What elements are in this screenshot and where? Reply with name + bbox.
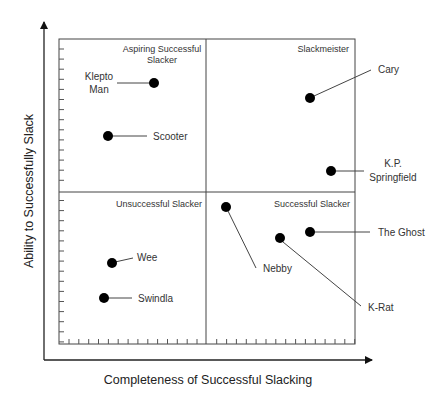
quadrant-chart: Aspiring Successful Slacker Slackmeister… bbox=[0, 0, 447, 405]
label-wee: Wee bbox=[137, 252, 158, 263]
leader-cary bbox=[314, 70, 371, 96]
label-scooter: Scooter bbox=[153, 131, 188, 142]
quadrant-label-slackmeister: Slackmeister bbox=[297, 44, 349, 54]
point-scooter[interactable] bbox=[103, 131, 113, 141]
point-swindla[interactable] bbox=[99, 293, 109, 303]
label-klepto-man: Klepto bbox=[85, 71, 114, 82]
data-points bbox=[99, 78, 336, 303]
label-kp-springfield-line2: Springfield bbox=[369, 172, 416, 183]
label-the-ghost: The Ghost bbox=[378, 227, 425, 238]
quadrant-label-successful: Successful Slacker bbox=[274, 199, 350, 209]
point-klepto-man[interactable] bbox=[149, 78, 159, 88]
leader-lines bbox=[108, 70, 371, 306]
quadrant-label-aspiring-line2: Slacker bbox=[147, 55, 177, 65]
point-k-rat[interactable] bbox=[275, 233, 285, 243]
label-nebby: Nebby bbox=[263, 263, 292, 274]
point-nebby[interactable] bbox=[221, 202, 231, 212]
point-wee[interactable] bbox=[107, 258, 117, 268]
label-kp-springfield: K.P. bbox=[384, 158, 402, 169]
point-kp-springfield[interactable] bbox=[326, 166, 336, 176]
leader-k-rat bbox=[283, 242, 361, 306]
quadrant-label-unsuccessful: Unsuccessful Slacker bbox=[116, 199, 202, 209]
label-cary: Cary bbox=[378, 64, 399, 75]
x-axis-label: Completeness of Successful Slacking bbox=[104, 373, 312, 387]
leader-nebby bbox=[228, 211, 256, 268]
leader-wee bbox=[115, 258, 133, 262]
point-cary[interactable] bbox=[305, 93, 315, 103]
quadrant-label-aspiring: Aspiring Successful bbox=[123, 44, 202, 54]
y-axis-label: Ability to Successfully Slack bbox=[22, 113, 36, 268]
label-k-rat: K-Rat bbox=[368, 302, 394, 313]
point-the-ghost[interactable] bbox=[305, 227, 315, 237]
label-klepto-man-line2: Man bbox=[89, 84, 108, 95]
label-swindla: Swindla bbox=[138, 293, 173, 304]
